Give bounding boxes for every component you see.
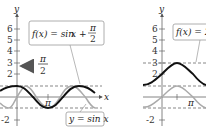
right-graph: y 6 5 4 3 2 -2 π f(x) = 2 — [143, 4, 206, 126]
sin-label: y = sin x — [68, 114, 109, 124]
y-axis-label: y — [158, 4, 165, 14]
f-arg: x + — [71, 29, 86, 39]
f-label: f(x) = 2 — [175, 27, 206, 37]
pi-label: π — [187, 98, 195, 108]
svg-text:4: 4 — [7, 46, 13, 56]
svg-text:-2: -2 — [1, 115, 10, 125]
svg-text:3: 3 — [152, 58, 158, 68]
f-label: f(x) = sin — [31, 29, 74, 39]
svg-text:6: 6 — [152, 24, 158, 34]
svg-text:2: 2 — [90, 34, 96, 44]
svg-text:π: π — [89, 23, 97, 33]
f-label-pointer — [70, 45, 80, 84]
pi-label: π — [44, 98, 52, 108]
svg-text:2: 2 — [7, 69, 13, 79]
svg-text:4: 4 — [152, 46, 158, 56]
shift-den: 2 — [40, 66, 46, 76]
svg-text:6: 6 — [7, 24, 13, 34]
y-axis-label: y — [13, 4, 20, 14]
left-graph: x y 6 5 4 3 2 -2 π π 2 — [0, 4, 109, 126]
svg-text:3: 3 — [7, 58, 13, 68]
shift-num: π — [39, 54, 47, 64]
svg-text:5: 5 — [152, 35, 158, 45]
svg-text:-2: -2 — [146, 115, 155, 125]
figure: x y 6 5 4 3 2 -2 π π 2 — [0, 0, 206, 132]
x-axis-label: x — [104, 92, 109, 102]
svg-text:5: 5 — [7, 35, 13, 45]
